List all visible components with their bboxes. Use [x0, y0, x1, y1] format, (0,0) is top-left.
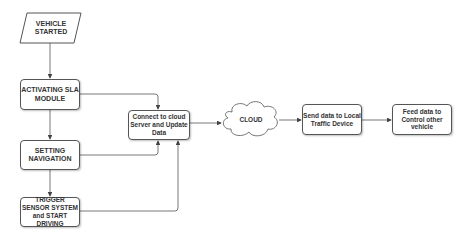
arrow-nav-to-connect [80, 141, 158, 155]
node-label: ACTIVATING SLA MODULE [21, 86, 79, 103]
node-cloud: CLOUD [228, 112, 274, 128]
node-setting-navigation: SETTING NAVIGATION [20, 140, 80, 170]
node-feed-control: Feed data to Control other vehicle [392, 104, 452, 135]
node-label: Connect to cloud Server and Update Data [129, 113, 189, 136]
node-connect-cloud: Connect to cloud Server and Update Data [128, 110, 190, 140]
arrow-sla-to-connect [80, 94, 158, 109]
arrow-trigger-to-connect [80, 141, 178, 211]
node-label: TRIGGER SENSOR SYSTEM and START DRIVING [21, 196, 79, 227]
node-label: SETTING NAVIGATION [21, 147, 79, 164]
node-trigger-sensor: TRIGGER SENSOR SYSTEM and START DRIVING [20, 197, 80, 227]
node-vehicle-started: VEHICLE STARTED [26, 13, 76, 43]
node-activating-sla: ACTIVATING SLA MODULE [20, 79, 80, 110]
node-label: CLOUD [239, 116, 262, 124]
node-send-local: Send data to Local Traffic Device [302, 104, 362, 135]
node-label: VEHICLE STARTED [26, 20, 76, 37]
node-label: Feed data to Control other vehicle [393, 108, 451, 131]
node-label: Send data to Local Traffic Device [303, 112, 361, 128]
